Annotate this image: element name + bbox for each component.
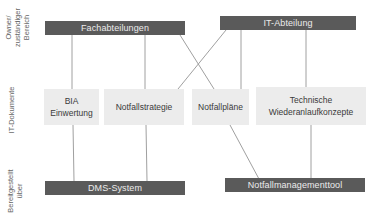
connector-it-strategie — [178, 30, 226, 89]
owner-bar-it-abteilung-label: IT-Abteilung — [263, 18, 312, 28]
system-bar-notfallmanagementtool-label: Notfallmanagementtool — [248, 180, 343, 190]
doc-box-technische-wiederanlaufkonzepte: Technische Wiederanlaufkonzepte — [256, 87, 366, 125]
doc-box-technische-line2: Wiederanlaufkonzepte — [269, 106, 354, 118]
doc-box-bia-line2: Einwertung — [50, 107, 93, 119]
side-label-owner-line1: Owner/ — [4, 3, 13, 53]
side-label-provided-line2: über — [15, 164, 24, 218]
doc-box-notfallplaene: Notfallpläne — [192, 89, 249, 125]
side-label-provided: Bereitgestellt über — [6, 164, 24, 218]
side-label-owner: Owner/ zuständiger Bereich — [4, 3, 31, 53]
side-label-owner-line2: zuständiger — [13, 3, 22, 53]
doc-box-bia: BIA Einwertung — [44, 89, 99, 125]
system-bar-dms: DMS-System — [45, 181, 185, 195]
side-label-provided-line1: Bereitgestellt — [6, 164, 15, 218]
doc-box-bia-line1: BIA — [65, 95, 79, 107]
doc-box-notfallstrategie: Notfallstrategie — [104, 89, 184, 125]
connector-plaene-tool — [230, 125, 259, 179]
side-label-documents-text: IT-Dokumente — [7, 86, 16, 133]
connector-strategie-dms — [146, 125, 147, 181]
owner-bar-fachabteilungen: Fachabteilungen — [45, 21, 185, 35]
side-label-owner-line3: Bereich — [22, 3, 31, 53]
doc-box-notfallstrategie-label: Notfallstrategie — [116, 101, 173, 113]
connector-bia-dms — [73, 125, 74, 181]
system-bar-dms-label: DMS-System — [88, 183, 142, 193]
side-label-documents: IT-Dokumente — [7, 80, 17, 140]
doc-box-notfallplaene-label: Notfallpläne — [198, 101, 243, 113]
doc-box-technische-line1: Technische — [290, 94, 333, 106]
owner-bar-fachabteilungen-label: Fachabteilungen — [81, 23, 149, 33]
owner-bar-it-abteilung: IT-Abteilung — [220, 16, 356, 30]
system-bar-notfallmanagementtool: Notfallmanagementtool — [225, 178, 365, 192]
responsibility-diagram: Owner/ zuständiger Bereich IT-Dokumente … — [0, 0, 371, 219]
